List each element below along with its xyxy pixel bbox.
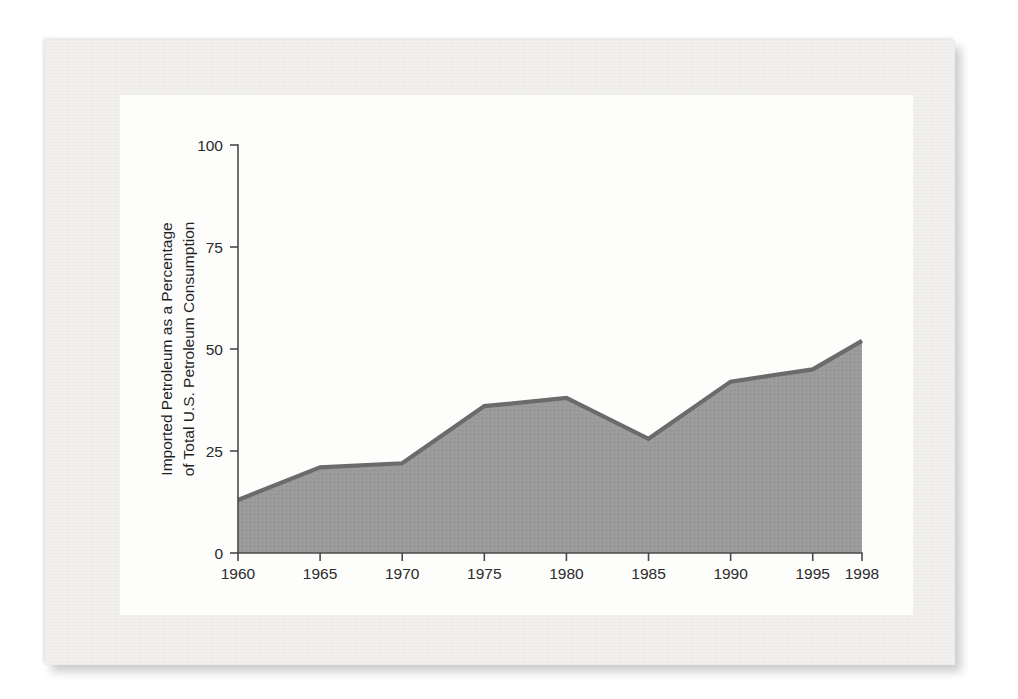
figure-card — [120, 95, 913, 615]
